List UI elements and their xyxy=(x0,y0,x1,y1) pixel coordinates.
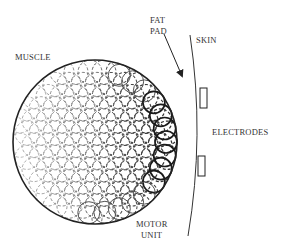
fat-pad-label-line1: FAT xyxy=(150,15,165,25)
surface-motor-unit xyxy=(150,104,172,126)
surface-motor-unit xyxy=(150,158,172,180)
motor-unit-label-line1: MOTOR xyxy=(136,219,168,229)
skin-line xyxy=(188,35,197,236)
electrodes-label: ELECTRODES xyxy=(212,127,268,137)
motor-unit-label-line2: UNIT xyxy=(141,230,162,240)
surface-motor-unit xyxy=(78,202,100,224)
surface-motor-unit xyxy=(108,198,130,220)
muscle-label: MUSCLE xyxy=(15,52,51,62)
electrode-top xyxy=(200,88,207,108)
electrode-bottom xyxy=(198,156,205,176)
emg-diagram: MUSCLE FAT PAD SKIN ELECTRODES MOTOR UNI… xyxy=(0,0,290,252)
diagram-svg xyxy=(0,0,290,252)
fat-pad-arrow xyxy=(164,34,182,76)
motor-unit-territories xyxy=(8,60,179,230)
skin-label: SKIN xyxy=(196,35,217,45)
fat-pad-label-line2: PAD xyxy=(150,26,167,36)
